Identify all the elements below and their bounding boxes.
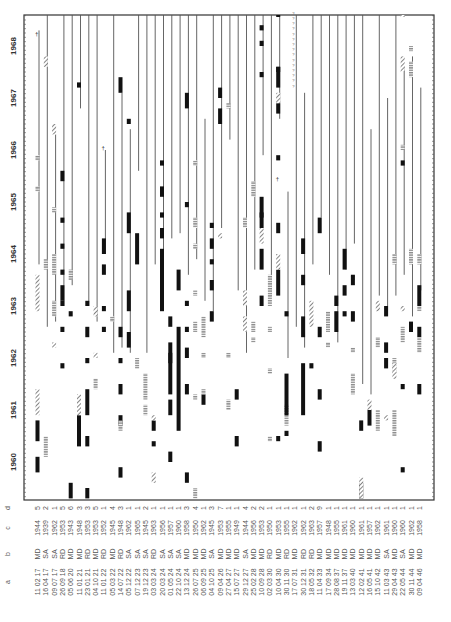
solid-bar — [301, 363, 305, 415]
dotted-bar — [202, 389, 206, 394]
column-label-d: 4 — [242, 506, 249, 510]
column-label-a: 17 07 31 — [291, 568, 298, 595]
solid-bar — [359, 420, 363, 430]
column-label-b: MD — [325, 549, 332, 560]
column-label-a: 06 09 25 — [200, 568, 207, 595]
row-header-d: d — [4, 506, 11, 510]
patient-column: ??????????????? — [292, 11, 296, 327]
question-mark: ? — [292, 78, 295, 83]
column-label-d: 2 — [42, 506, 49, 510]
row-header-c: c — [4, 526, 11, 530]
solid-bar — [318, 389, 322, 399]
dagger-mark: † — [35, 31, 38, 37]
question-mark: ? — [292, 68, 295, 73]
patient-column — [392, 15, 396, 436]
solid-bar — [160, 228, 164, 238]
hatched-bar — [36, 275, 40, 311]
dotted-bar — [326, 311, 330, 332]
hatched-bar — [94, 306, 98, 316]
year-tick-label: 1965 — [9, 193, 18, 211]
dotted-bar — [409, 249, 413, 265]
solid-bar — [218, 88, 222, 98]
dotted-bar — [417, 337, 421, 353]
question-mark: ? — [292, 21, 295, 26]
solid-bar — [285, 311, 289, 316]
column-label-c: 1962 — [291, 520, 298, 536]
solid-bar — [60, 244, 64, 249]
dotted-bar — [268, 436, 272, 441]
dotted-bar — [193, 218, 197, 228]
solid-bar — [127, 332, 131, 348]
dotted-bar — [94, 379, 98, 389]
column-label-c: 1950 — [192, 520, 199, 536]
solid-bar — [210, 223, 214, 228]
dotted-bar — [143, 405, 147, 415]
solid-bar — [60, 171, 64, 181]
solid-bar — [168, 342, 172, 394]
year-tick-label: 1961 — [9, 401, 18, 419]
column-label-b: MD — [192, 549, 199, 560]
solid-bar — [168, 400, 172, 416]
solid-bar — [260, 197, 264, 218]
patient-column — [351, 15, 355, 394]
column-label-b: MD — [366, 549, 373, 560]
year-tick-label: 1966 — [9, 141, 18, 159]
column-label-a: 11 01 21 — [76, 569, 83, 596]
patient-column — [152, 15, 156, 483]
solid-bar — [168, 353, 172, 363]
solid-bar — [384, 306, 388, 316]
column-label-c: 1945 — [109, 520, 116, 536]
patient-column — [168, 15, 172, 462]
column-label-d: 1 — [399, 506, 406, 510]
solid-bar — [417, 285, 421, 306]
column-label-b: RD — [283, 549, 290, 559]
solid-bar — [276, 15, 280, 17]
year-tick-label: 1960 — [9, 453, 18, 471]
dotted-bar — [193, 160, 197, 165]
solid-bar — [127, 290, 131, 306]
column-label-d: 1 — [408, 506, 415, 510]
year-tick-label: 1963 — [9, 297, 18, 315]
dotted-bar — [193, 322, 197, 332]
question-mark: ? — [292, 52, 295, 57]
dotted-bar — [193, 488, 197, 498]
solid-bar — [384, 358, 388, 368]
column-label-a: 30 11 30 — [283, 569, 290, 596]
dotted-bar — [193, 290, 197, 295]
hatched-bar — [368, 400, 372, 410]
column-label-b: RD — [266, 549, 273, 559]
solid-bar — [276, 67, 280, 72]
solid-bar — [210, 238, 214, 248]
column-label-d: 7 — [217, 506, 224, 510]
solid-bar — [343, 249, 347, 270]
column-label-b: RD — [117, 549, 124, 559]
patient-column — [226, 15, 230, 410]
solid-bar — [119, 467, 123, 477]
patient-column — [177, 15, 181, 431]
solid-bar — [160, 186, 164, 196]
patient-column: † — [276, 15, 281, 441]
column-label-c: 1955 — [225, 520, 232, 536]
column-label-b: MD — [349, 549, 356, 560]
solid-bar — [185, 348, 189, 358]
patient-column — [318, 15, 322, 452]
column-label-d: 1 — [134, 506, 141, 510]
patient-column — [44, 15, 48, 457]
solid-bar — [60, 270, 64, 275]
column-label-d: 1 — [416, 506, 423, 510]
column-label-c: 1960 — [349, 520, 356, 536]
column-labels: abcd51944MD11 02 1721939SA16 04 1711962S… — [4, 506, 423, 596]
solid-bar — [218, 108, 222, 124]
question-mark: ? — [292, 84, 295, 89]
dotted-bar — [392, 254, 396, 264]
hatched-bar — [401, 56, 405, 72]
dotted-bar — [36, 155, 40, 160]
solid-bar — [102, 327, 106, 332]
patient-column — [69, 15, 73, 498]
column-label-c: 1957 — [167, 520, 174, 536]
solid-bar — [260, 25, 264, 30]
column-label-d: 1 — [100, 506, 107, 510]
column-label-c: 1953 — [92, 520, 99, 536]
patient-column — [60, 15, 64, 368]
solid-bar — [185, 202, 189, 207]
